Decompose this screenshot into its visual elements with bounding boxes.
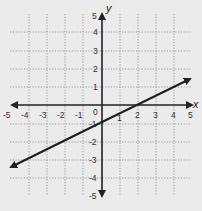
coordinate-plane: x y -5 -4 -3 -2 -1 0 1 2 3 4 5 5 4 3 2 1… <box>0 0 202 211</box>
svg-text:3: 3 <box>153 110 158 120</box>
y-axis-label: y <box>105 2 113 14</box>
svg-text:-4: -4 <box>21 110 29 120</box>
svg-text:4: 4 <box>93 27 98 37</box>
y-tick-labels: 5 4 3 2 1 -1 -2 -3 -4 -5 <box>89 11 98 201</box>
svg-text:-1: -1 <box>75 110 83 120</box>
svg-text:-2: -2 <box>57 110 65 120</box>
svg-text:-5: -5 <box>3 110 11 120</box>
x-tick-labels: -5 -4 -3 -2 -1 0 1 2 3 4 5 <box>3 107 193 123</box>
svg-text:-4: -4 <box>89 173 97 183</box>
svg-text:-1: -1 <box>89 119 97 129</box>
svg-text:-5: -5 <box>89 191 97 201</box>
x-axis-label: x <box>192 98 199 110</box>
svg-text:4: 4 <box>171 110 176 120</box>
svg-text:5: 5 <box>92 11 97 21</box>
svg-text:-3: -3 <box>39 110 47 120</box>
svg-text:-2: -2 <box>89 137 97 147</box>
svg-text:1: 1 <box>117 113 122 123</box>
svg-text:1: 1 <box>93 82 98 92</box>
svg-text:3: 3 <box>93 46 98 56</box>
plotted-line <box>100 79 190 123</box>
svg-text:2: 2 <box>135 110 140 120</box>
svg-text:5: 5 <box>188 110 193 120</box>
svg-text:0: 0 <box>93 107 98 117</box>
svg-text:2: 2 <box>93 64 98 74</box>
svg-text:-3: -3 <box>89 155 97 165</box>
